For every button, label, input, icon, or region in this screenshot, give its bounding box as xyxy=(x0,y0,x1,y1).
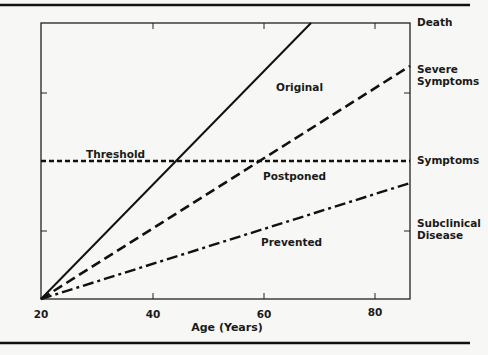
stage-subclinical-line2: Disease xyxy=(417,229,481,241)
stage-severe-line1: Severe xyxy=(417,63,479,75)
stage-death-label: Death xyxy=(417,16,452,28)
original-label: Original xyxy=(276,81,323,93)
postponed-label: Postponed xyxy=(263,170,326,182)
chart-canvas xyxy=(0,0,488,355)
stage-symptoms-label: Symptoms xyxy=(417,154,479,166)
stage-severe-line2: Symptoms xyxy=(417,75,479,87)
x-tick-80: 80 xyxy=(368,306,383,318)
threshold-label: Threshold xyxy=(86,148,145,160)
x-tick-20: 20 xyxy=(34,308,49,320)
x-tick-60: 60 xyxy=(257,308,272,320)
x-tick-40: 40 xyxy=(146,308,161,320)
prevented-label: Prevented xyxy=(261,236,322,248)
postponed-line xyxy=(41,66,410,299)
stage-severe-label: Severe Symptoms xyxy=(417,63,479,87)
stage-subclinical-label: Subclinical Disease xyxy=(417,217,481,241)
stage-subclinical-line1: Subclinical xyxy=(417,217,481,229)
x-axis-title: Age (Years) xyxy=(191,321,263,334)
